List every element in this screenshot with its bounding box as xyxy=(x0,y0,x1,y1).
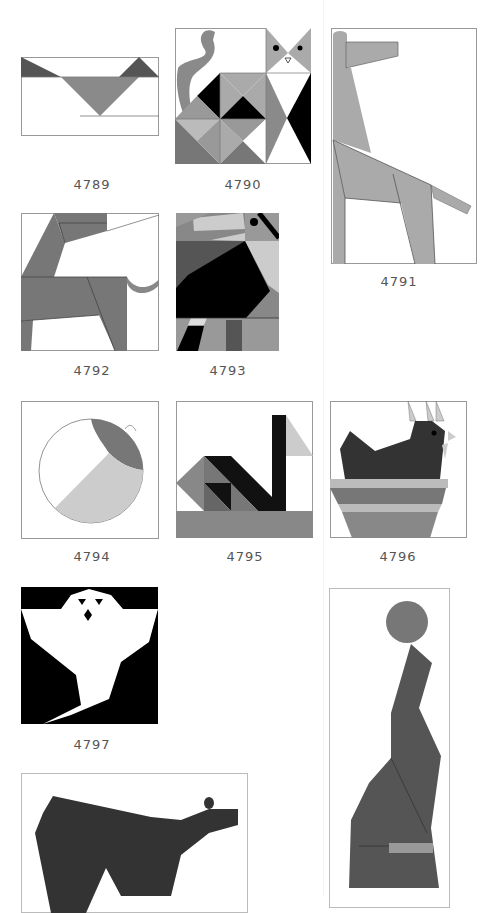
quilt-block-4793[interactable] xyxy=(176,213,279,351)
quilt-block-4791[interactable] xyxy=(331,28,477,264)
quilt-block-4796[interactable] xyxy=(330,401,467,538)
quilt-block-4792[interactable] xyxy=(21,213,159,351)
block-caption: 4790 xyxy=(203,177,283,192)
block-caption: 4792 xyxy=(52,363,132,378)
block-caption: 4795 xyxy=(205,549,285,564)
block-caption: 4793 xyxy=(188,363,268,378)
block-caption: 4797 xyxy=(52,737,132,752)
block-caption: 4794 xyxy=(52,549,132,564)
block-caption: 4789 xyxy=(52,177,132,192)
quilt-block-bear[interactable] xyxy=(21,773,248,913)
quilt-block-4794[interactable] xyxy=(21,401,159,539)
quilt-block-4795[interactable] xyxy=(176,401,313,538)
quilt-block-4797[interactable] xyxy=(21,587,158,724)
block-caption: 4791 xyxy=(359,274,439,289)
block-caption: 4796 xyxy=(358,549,438,564)
quilt-block-4789[interactable] xyxy=(21,57,159,136)
quilt-block-4790[interactable] xyxy=(175,28,311,164)
page-fold-guide xyxy=(323,0,324,896)
quilt-block-seal[interactable] xyxy=(329,588,450,908)
